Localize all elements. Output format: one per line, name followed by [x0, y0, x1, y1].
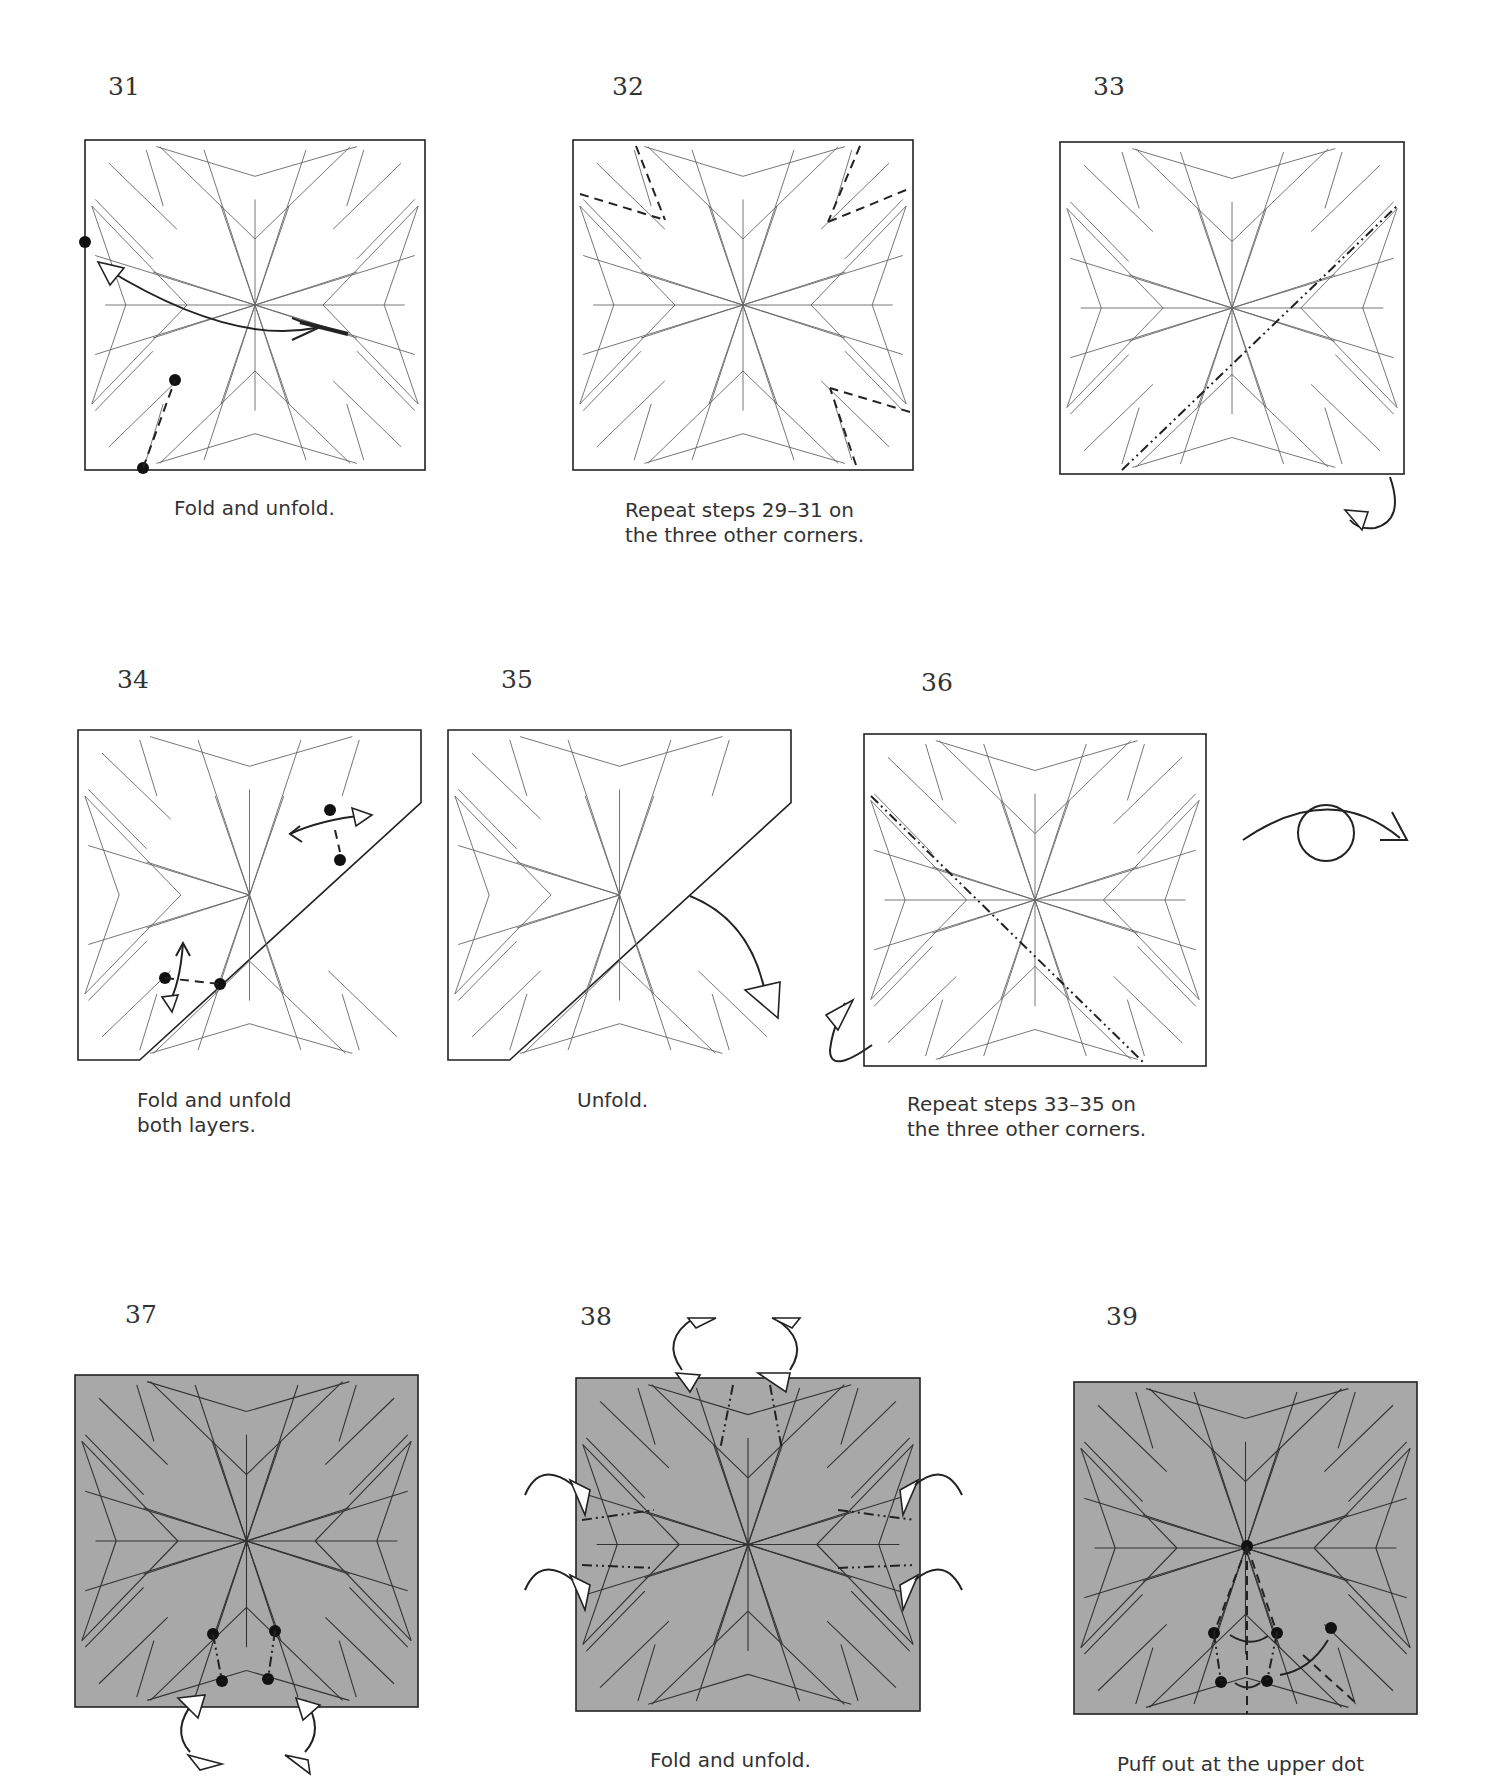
step-33-paper	[1060, 142, 1404, 474]
step-38-paper	[576, 1378, 920, 1711]
step-caption: Repeat steps 29–31 on the three other co…	[625, 498, 864, 548]
step-number: 35	[501, 665, 533, 694]
caption-line: the three other corners.	[907, 1117, 1146, 1142]
arrowhead-icon	[188, 1755, 222, 1770]
crease-line	[342, 994, 359, 1050]
step-caption: Unfold.	[577, 1088, 648, 1113]
step-caption: Puff out at the upper dot	[1117, 1752, 1364, 1777]
turn-over-icon	[1298, 805, 1354, 861]
caption-line: Puff out at the upper dot	[1117, 1752, 1364, 1777]
fold-dot	[79, 236, 91, 248]
turn-over-arrow-icon	[1243, 809, 1400, 840]
caption-line: Repeat steps 33–35 on	[907, 1092, 1146, 1117]
caption-line: the three other corners.	[625, 523, 864, 548]
sink-arrow-icon	[915, 1570, 962, 1590]
step-32-paper	[573, 140, 913, 470]
crease-line	[328, 971, 397, 1037]
arrowhead-icon	[285, 1755, 310, 1774]
step-31-paper	[85, 140, 425, 470]
arrowhead-icon	[688, 1318, 716, 1328]
step-number: 33	[1093, 72, 1125, 101]
crease-line	[712, 994, 729, 1050]
sink-arrow-icon	[915, 1475, 962, 1495]
step-36-paper	[864, 734, 1206, 1066]
arrowhead-icon	[745, 982, 780, 1018]
step-caption: Fold and unfold.	[174, 496, 335, 521]
fold-dot	[324, 804, 336, 816]
caption-line: Fold and unfold	[137, 1088, 292, 1113]
step-number: 38	[580, 1302, 612, 1331]
unfold-arrow-icon	[690, 896, 765, 992]
step-37-paper	[75, 1375, 418, 1707]
step-number: 36	[921, 668, 953, 697]
step-caption: Fold and unfold both layers.	[137, 1088, 292, 1138]
sink-arrow-icon	[525, 1475, 573, 1495]
step-caption: Fold and unfold.	[650, 1748, 811, 1773]
caption-line: Fold and unfold.	[650, 1748, 811, 1773]
step-number: 34	[117, 665, 149, 694]
fold-dot	[334, 854, 346, 866]
sink-arrow-icon	[673, 1318, 694, 1370]
caption-line: both layers.	[137, 1113, 292, 1138]
step-34-paper	[78, 730, 421, 1060]
step-31-diagram	[0, 0, 1488, 1785]
caption-line: Unfold.	[577, 1088, 648, 1113]
step-number: 39	[1106, 1302, 1138, 1331]
step-35-paper	[448, 730, 791, 1060]
step-number: 32	[612, 72, 644, 101]
sink-arrow-icon	[525, 1570, 573, 1590]
step-number: 37	[125, 1300, 157, 1329]
arrowhead-icon	[826, 1000, 853, 1030]
step-caption: Repeat steps 33–35 on the three other co…	[907, 1092, 1146, 1142]
crease-line	[698, 971, 767, 1037]
fold-dot	[1325, 1622, 1337, 1634]
caption-line: Repeat steps 29–31 on	[625, 498, 864, 523]
caption-line: Fold and unfold.	[174, 496, 335, 521]
